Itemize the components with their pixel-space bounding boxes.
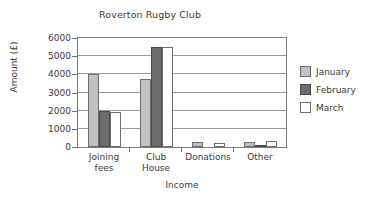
y-axis-ticks: 6000500040003000200010000 — [37, 30, 77, 155]
y-tick-label: 6000 — [48, 33, 71, 43]
legend-swatch-icon — [300, 102, 311, 113]
bar-january-club-house — [140, 79, 151, 147]
bar-february-club-house — [151, 47, 162, 147]
x-tick-label: ClubHouse — [130, 152, 182, 173]
x-tick-label-line: Other — [234, 152, 286, 163]
legend-item-march[interactable]: March — [300, 102, 356, 113]
legend-swatch-icon — [300, 84, 311, 95]
y-tick-label: 1000 — [48, 124, 71, 134]
x-tick-label-line: Joining — [78, 152, 130, 163]
legend-label: February — [316, 85, 356, 95]
chart-legend: JanuaryFebruaryMarch — [300, 66, 356, 113]
bar-january-other — [244, 142, 255, 147]
y-tick-label: 0 — [65, 142, 71, 152]
y-tick-label: 3000 — [48, 88, 71, 98]
x-tick-label-line: Club — [130, 152, 182, 163]
y-tick-label: 2000 — [48, 106, 71, 116]
bar-march-club-house — [162, 47, 173, 147]
x-tick-label: Other — [234, 152, 286, 173]
y-tick-label: 4000 — [48, 69, 71, 79]
bar-group — [182, 38, 234, 147]
bar-group — [234, 38, 286, 147]
x-axis-label: Income — [78, 180, 286, 190]
bar-january-joining-fees — [88, 74, 99, 147]
x-tick-label-line: House — [130, 163, 182, 174]
legend-label: March — [316, 103, 343, 113]
x-tick-label: Joiningfees — [78, 152, 130, 173]
bar-february-joining-fees — [99, 111, 110, 147]
bar-march-other — [266, 141, 277, 147]
bar-february-other — [255, 145, 266, 147]
legend-item-february[interactable]: February — [300, 84, 356, 95]
chart-title: Roverton Rugby Club — [0, 9, 300, 20]
legend-swatch-icon — [300, 66, 311, 77]
x-axis-tick-labels: JoiningfeesClubHouseDonationsOther — [78, 152, 286, 173]
bar-group — [130, 38, 182, 147]
bar-group — [78, 38, 130, 147]
bar-march-donations — [214, 143, 225, 147]
bar-chart: Roverton Rugby Club Amount (£) 600050004… — [0, 0, 375, 205]
bar-series-container — [78, 38, 286, 147]
bar-march-joining-fees — [110, 112, 121, 147]
legend-item-january[interactable]: January — [300, 66, 356, 77]
legend-label: January — [316, 67, 350, 77]
x-tick-label: Donations — [182, 152, 234, 173]
y-tick-label: 5000 — [48, 51, 71, 61]
bar-january-donations — [192, 142, 203, 147]
y-axis-label: Amount (£) — [9, 27, 19, 107]
x-tick-label-line: Donations — [182, 152, 234, 163]
x-tick-label-line: fees — [78, 163, 130, 174]
